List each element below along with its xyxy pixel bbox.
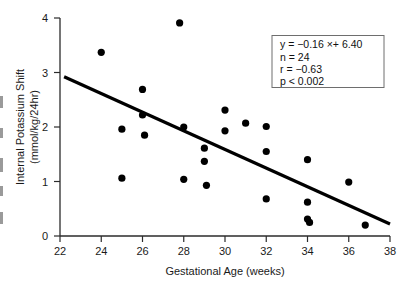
data-point	[118, 175, 125, 182]
x-axis-ticks: 22 24 26 28 30 32 34 36 38	[54, 236, 396, 257]
x-tick-label-36: 36	[343, 245, 355, 257]
x-tick-label-24: 24	[95, 245, 107, 257]
data-point	[141, 132, 148, 139]
stats-equation: y = −0.16 ×+ 6.40	[280, 38, 362, 50]
y-tick-label-2: 2	[42, 121, 48, 133]
stats-p: p < 0.002	[280, 75, 324, 87]
data-point	[139, 86, 146, 93]
y-axis-ticks: 0 1 2 3 4	[42, 12, 60, 242]
data-point	[176, 19, 183, 26]
stats-legend-box: y = −0.16 ×+ 6.40 n = 24 r = −0.63 p < 0…	[272, 36, 384, 88]
data-point	[306, 219, 313, 226]
y-tick-label-3: 3	[42, 67, 48, 79]
y-tick-label-1: 1	[42, 176, 48, 188]
data-point	[98, 49, 105, 56]
data-point	[221, 107, 228, 114]
stats-r: r = −0.63	[280, 63, 322, 75]
scatter-plot-figure: 0 1 2 3 4 22 24 26 28 30 32 34 36 38	[0, 0, 410, 284]
data-point	[201, 158, 208, 165]
data-point	[180, 176, 187, 183]
data-point	[221, 127, 228, 134]
page-edge-marks	[0, 96, 3, 224]
data-point	[118, 126, 125, 133]
data-point	[242, 120, 249, 127]
stats-n: n = 24	[280, 51, 310, 63]
y-axis-title-line2: (mmol/kg/24hr)	[28, 90, 40, 164]
x-tick-label-26: 26	[136, 245, 148, 257]
x-tick-label-38: 38	[384, 245, 396, 257]
x-tick-label-30: 30	[219, 245, 231, 257]
y-tick-label-0: 0	[42, 230, 48, 242]
y-axis-title-line1: Internal Potassium Shift	[14, 69, 26, 185]
x-tick-label-28: 28	[178, 245, 190, 257]
data-point	[263, 195, 270, 202]
data-point	[180, 123, 187, 130]
data-point	[345, 179, 352, 186]
x-tick-label-22: 22	[54, 245, 66, 257]
data-point	[263, 123, 270, 130]
y-tick-label-4: 4	[42, 12, 48, 24]
chart-canvas: 0 1 2 3 4 22 24 26 28 30 32 34 36 38	[0, 0, 410, 284]
x-tick-label-34: 34	[301, 245, 313, 257]
data-point	[139, 111, 146, 118]
data-point	[304, 199, 311, 206]
data-point	[203, 182, 210, 189]
x-axis-title: Gestational Age (weeks)	[165, 265, 284, 277]
data-point	[201, 145, 208, 152]
regression-line	[64, 77, 390, 224]
data-point	[304, 156, 311, 163]
x-tick-label-32: 32	[260, 245, 272, 257]
data-point	[362, 222, 369, 229]
data-point	[263, 148, 270, 155]
